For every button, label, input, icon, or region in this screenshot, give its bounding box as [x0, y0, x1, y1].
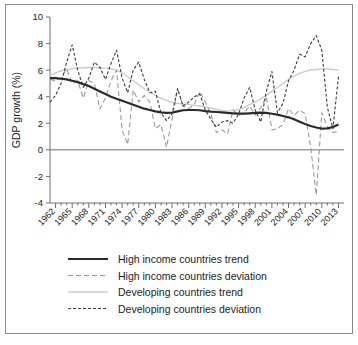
gdp-growth-line-chart: 1086420-2-4 GDP growth (%) 1962196519681…	[6, 5, 352, 333]
x-tick-label: 2004	[269, 206, 290, 227]
legend-label-developing_deviation: Developing countries deviation	[118, 303, 261, 315]
x-tick-label: 1974	[102, 206, 123, 227]
y-axis-label: GDP growth (%)	[10, 72, 22, 148]
x-tick-label: 1977	[119, 206, 140, 227]
x-tick-label: 1983	[152, 206, 173, 227]
legend-item-high_income_deviation[interactable]: High income countries deviation	[68, 270, 267, 282]
legend-label-developing_trend: Developing countries trend	[118, 286, 243, 298]
x-tick-label: 1992	[202, 206, 223, 227]
figure-frame: 1086420-2-4 GDP growth (%) 1962196519681…	[5, 4, 353, 334]
y-tick-label: 10	[32, 11, 43, 22]
x-tick-label: 2001	[252, 206, 273, 227]
x-tick-label: 1980	[136, 206, 157, 227]
y-axis-title: GDP growth (%)	[10, 72, 22, 148]
y-tick-label: -2	[35, 171, 43, 182]
x-tick-label: 1998	[235, 206, 256, 227]
legend-label-high_income_deviation: High income countries deviation	[118, 270, 267, 282]
legend-item-developing_trend[interactable]: Developing countries trend	[68, 286, 243, 298]
x-tick-label: 2007	[285, 206, 306, 227]
legend-item-developing_deviation[interactable]: Developing countries deviation	[68, 303, 261, 315]
x-tick-label: 1989	[185, 206, 206, 227]
y-tick-label: 2	[38, 118, 43, 129]
chart-series	[50, 36, 338, 195]
y-tick-label: 0	[38, 144, 43, 155]
y-tick-label: 6	[38, 65, 43, 76]
x-tick-label: 1971	[86, 206, 107, 227]
legend-label-high_income_trend: High income countries trend	[118, 253, 249, 265]
y-tick-label: 8	[38, 38, 43, 49]
x-tick-label: 1995	[219, 206, 240, 227]
x-tick-label: 1965	[52, 206, 73, 227]
legend-item-high_income_trend[interactable]: High income countries trend	[68, 253, 249, 265]
x-tick-label: 2013	[319, 206, 340, 227]
y-tick-label: 4	[38, 91, 43, 102]
y-axis: 1086420-2-4	[32, 11, 50, 208]
x-tick-label: 1986	[169, 206, 190, 227]
chart-legend: High income countries trendHigh income c…	[68, 253, 267, 315]
y-tick-label: -4	[35, 197, 43, 208]
x-tick-label: 2010	[302, 206, 323, 227]
x-tick-label: 1968	[69, 206, 90, 227]
x-tick-label: 1962	[36, 206, 57, 227]
x-tick-labels: 1962196519681971197419771980198319861989…	[36, 206, 340, 227]
